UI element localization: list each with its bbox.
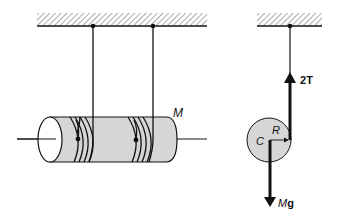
- tension-label: 2T: [300, 74, 313, 86]
- weight-arrowhead-icon: [264, 197, 276, 207]
- tension-arrowhead-icon: [284, 72, 296, 83]
- physics-diagram: M 2T R C Mg: [0, 0, 340, 220]
- ceiling-left: [37, 13, 207, 25]
- radius-label: R: [272, 124, 280, 136]
- ceiling-right: [257, 13, 322, 25]
- cylinder-body: [50, 117, 177, 162]
- weight-label: Mg: [278, 197, 294, 209]
- right-figure: 2T R C Mg: [247, 13, 322, 209]
- center-label: C: [256, 135, 264, 147]
- left-figure: M: [17, 13, 207, 162]
- mass-label: M: [173, 106, 183, 120]
